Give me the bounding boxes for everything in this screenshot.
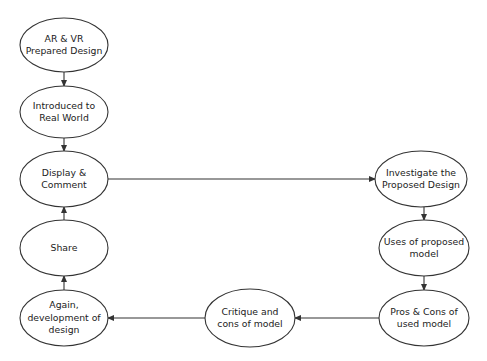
node-label-n4: Share xyxy=(20,220,108,276)
node-label-n7: Uses of proposed model xyxy=(379,220,469,276)
node-label-n5: Again, development of design xyxy=(20,290,108,346)
node-label-n6: Investigate the Proposed Design xyxy=(375,151,467,207)
node-label-n9: Critique and cons of model xyxy=(205,289,295,347)
edges-layer xyxy=(64,72,424,318)
node-label-n1: AR & VR Prepared Design xyxy=(20,18,108,72)
flowchart-diagram: AR & VR Prepared DesignIntroduced to Rea… xyxy=(0,0,487,361)
node-label-n2: Introduced to Real World xyxy=(20,86,108,138)
node-label-n8: Pros & Cons of used model xyxy=(379,290,469,346)
node-label-n3: Display & Comment xyxy=(20,151,108,207)
